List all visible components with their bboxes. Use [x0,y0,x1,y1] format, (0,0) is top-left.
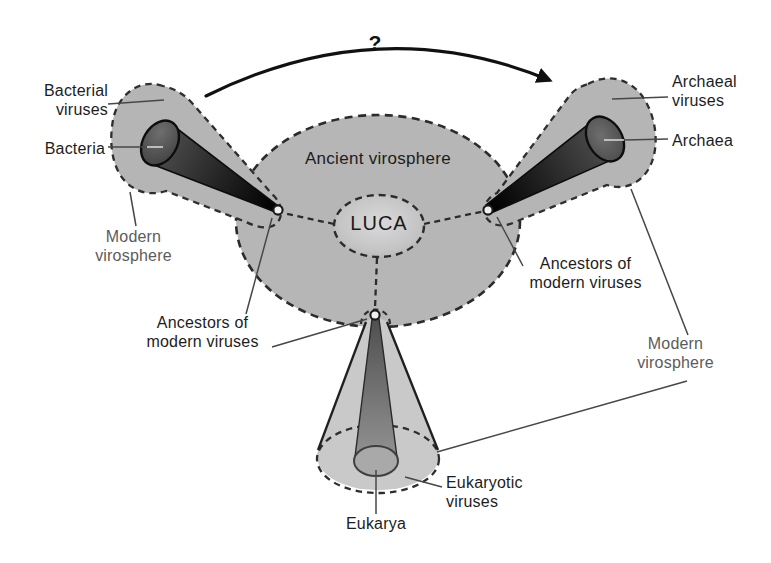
archaeal-viruses-label: Archaeal viruses [672,72,764,110]
archaea-label: Archaea [672,131,764,150]
eukaryotic-viruses-label: Eukaryotic viruses [446,473,561,511]
question-mark-label: ? [364,33,386,52]
luca-label: LUCA [334,214,424,233]
bacteria-label: Bacteria [8,139,105,158]
clipped-page-heading: Where do viruses come from? [210,0,540,5]
modern-virosphere-right-label: Modern virosphere [603,334,748,372]
figure-canvas: Where do viruses come from? ? Bacterial … [0,0,771,563]
ancestor-node-archaea [483,205,492,214]
eukarya-label: Eukarya [325,514,427,533]
ancestors-of-modern-viruses-left-label: Ancestors of modern viruses [120,313,285,351]
clipped-heading-text: Where do viruses come from? [210,0,540,4]
ancient-virosphere-label: Ancient virosphere [288,149,468,168]
ancestor-node-bacteria [273,205,282,214]
modern-virosphere-left-label: Modern virosphere [61,227,206,265]
bacterial-viruses-label: Bacterial viruses [8,81,108,119]
origin-question-arrow [206,49,549,96]
ancestor-node-eukarya [370,310,379,319]
ancestors-of-modern-viruses-right-label: Ancestors of modern viruses [503,254,668,292]
